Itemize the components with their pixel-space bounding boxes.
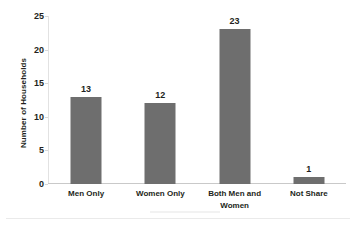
- bar-value-label: 12: [155, 90, 165, 101]
- bar-slot: 23: [198, 16, 272, 184]
- y-tick-label: 10: [22, 111, 44, 123]
- y-tick-mark: [45, 16, 48, 17]
- y-tick-label: 5: [22, 144, 44, 156]
- bar-rect[interactable]: [71, 97, 102, 184]
- bar-value-label: 23: [230, 16, 240, 27]
- y-tick-mark: [45, 117, 48, 118]
- x-tick-label-line: Not Share: [272, 188, 346, 200]
- x-tick-label: Both Men andWomen: [198, 188, 272, 211]
- y-tick-label: 25: [22, 10, 44, 22]
- x-tick-label-line: Men Only: [49, 188, 123, 200]
- bar-value-label: 1: [306, 164, 311, 175]
- bar-slot: 13: [49, 16, 123, 184]
- y-tick-label: 0: [22, 178, 44, 190]
- bar-rect[interactable]: [293, 177, 324, 184]
- bar-slot: 1: [272, 16, 346, 184]
- y-tick-mark: [45, 83, 48, 84]
- y-tick-label: 15: [22, 77, 44, 89]
- bar-rect[interactable]: [145, 103, 176, 184]
- x-tick-label-line: Women: [198, 200, 272, 212]
- y-tick-mark: [45, 184, 48, 185]
- x-tick-label-line: Women Only: [123, 188, 197, 200]
- y-tick-mark: [45, 50, 48, 51]
- bar-chart-figure: Number of Households 0510152025 1312231 …: [0, 0, 355, 225]
- bar-rect[interactable]: [219, 29, 250, 184]
- x-tick-label-line: Both Men and: [198, 188, 272, 200]
- scan-artifact-smudge: [150, 211, 220, 213]
- bar-value-label: 13: [81, 84, 91, 95]
- bars-group: 1312231: [49, 16, 346, 184]
- y-tick-mark: [45, 150, 48, 151]
- x-tick-label: Men Only: [49, 188, 123, 200]
- x-axis-tick-labels: Men OnlyWomen OnlyBoth Men andWomenNot S…: [49, 188, 346, 222]
- bar-slot: 12: [123, 16, 197, 184]
- y-axis-tick-labels: 0510152025: [22, 10, 44, 190]
- plot-area: 1312231: [48, 16, 346, 184]
- y-tick-label: 20: [22, 44, 44, 56]
- x-tick-label: Women Only: [123, 188, 197, 200]
- x-tick-label: Not Share: [272, 188, 346, 200]
- scan-artifact-line: [6, 218, 350, 219]
